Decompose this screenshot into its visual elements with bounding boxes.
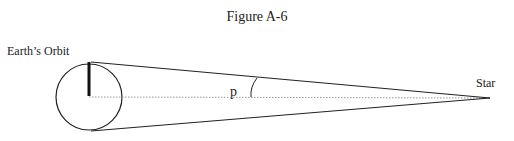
baseline-dotted-line bbox=[89, 97, 490, 98]
upper-sight-line bbox=[91, 62, 490, 98]
parallax-diagram: Figure A-6 Earth’s Orbit Star p bbox=[0, 0, 514, 141]
parallax-angle-arc bbox=[251, 78, 257, 97]
diagram-graphics bbox=[0, 0, 514, 141]
lower-sight-line bbox=[91, 98, 490, 131]
